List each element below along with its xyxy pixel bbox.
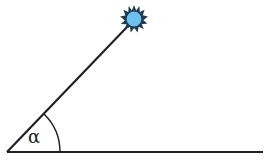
angle-arc	[44, 114, 60, 152]
angle-label: α	[28, 126, 40, 147]
angle-diagram: α	[0, 0, 268, 168]
sun-ray-line	[7, 26, 128, 152]
